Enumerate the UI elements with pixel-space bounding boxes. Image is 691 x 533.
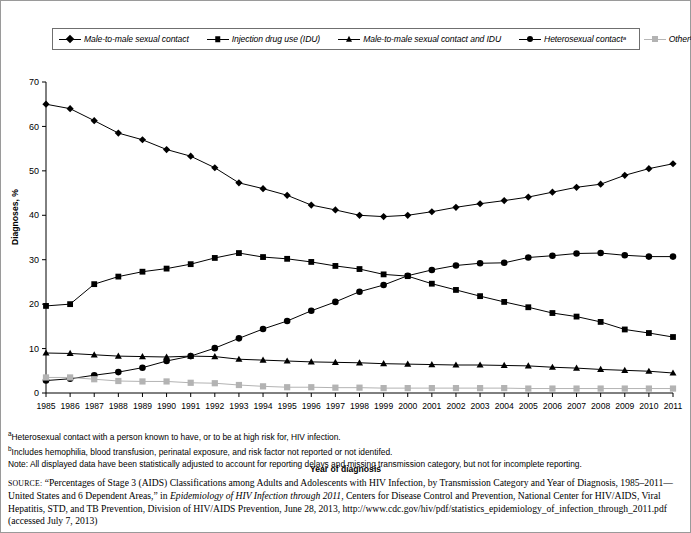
data-point-marker [428, 208, 435, 215]
data-point-marker [646, 330, 652, 336]
data-point-marker [598, 319, 604, 325]
footnote-a: aHeterosexual contact with a person know… [8, 428, 684, 443]
data-point-marker [115, 274, 121, 280]
data-point-marker [139, 364, 146, 371]
data-point-marker [404, 272, 411, 279]
data-point-marker [236, 335, 243, 342]
y-axis-tick-label: 20 [29, 299, 39, 309]
y-axis-title: Diagnoses, % [10, 189, 20, 245]
x-axis-tick-label: 2008 [591, 401, 610, 411]
data-point-marker [67, 105, 74, 112]
data-point-marker [67, 301, 73, 307]
data-point-marker [525, 254, 532, 261]
x-axis-tick-label: 1987 [85, 401, 104, 411]
x-axis-tick-label: 1995 [278, 401, 297, 411]
data-point-marker [91, 281, 97, 287]
data-point-marker [139, 378, 145, 384]
data-point-marker [115, 378, 121, 384]
data-point-marker [669, 160, 676, 167]
data-point-marker [429, 385, 435, 391]
data-point-marker [212, 345, 219, 352]
data-point-marker [477, 293, 483, 299]
x-axis-tick-label: 2009 [615, 401, 634, 411]
data-point-marker [43, 374, 49, 380]
data-point-marker [501, 260, 508, 267]
circle-marker-icon [519, 34, 541, 44]
data-point-marker [140, 269, 146, 275]
triangle-marker-icon [338, 34, 360, 44]
data-point-marker [597, 181, 604, 188]
data-point-marker [284, 318, 291, 325]
data-point-marker [188, 380, 194, 386]
footnote-note: Note: All displayed data have been stati… [8, 459, 684, 471]
data-point-marker [453, 287, 459, 293]
x-axis-tick-label: 1996 [302, 401, 321, 411]
legend-label: Male-to-male sexual contact and IDU [363, 34, 501, 44]
series-male-to-male-sexual-contact-and-idu [43, 349, 677, 375]
data-point-marker [405, 385, 411, 391]
footnote-a-text: Heterosexual contact with a person known… [12, 432, 341, 442]
data-point-marker [163, 146, 170, 153]
x-axis-tick-label: 1991 [181, 401, 200, 411]
y-axis-tick-label: 70 [29, 77, 39, 87]
x-axis-tick-label: 2003 [471, 401, 490, 411]
data-point-marker [477, 385, 483, 391]
x-axis-tick-label: 1994 [253, 401, 272, 411]
data-point-marker [476, 200, 483, 207]
data-point-marker [67, 374, 73, 380]
x-axis-tick-label: 2006 [543, 401, 562, 411]
x-axis-tick-label: 1998 [350, 401, 369, 411]
series-injection-drug-use-idu [43, 250, 676, 340]
legend-label: Male-to-male sexual contact [84, 34, 189, 44]
x-axis-tick-label: 1990 [157, 401, 176, 411]
x-axis-tick-label: 2001 [422, 401, 441, 411]
data-point-marker [212, 380, 218, 386]
legend-item-heterosexual-contact: Heterosexual contactᵃ [519, 34, 626, 44]
data-point-marker [380, 213, 387, 220]
x-axis-tick-label: 1999 [374, 401, 393, 411]
x-axis-tick-label: 2010 [639, 401, 658, 411]
data-point-marker [308, 308, 315, 315]
frame-top-rule [0, 0, 691, 1]
data-point-marker [187, 353, 194, 360]
gray-square-marker-icon [644, 34, 666, 44]
data-point-marker [236, 382, 242, 388]
data-point-marker [597, 250, 604, 257]
data-point-marker [452, 204, 459, 211]
y-axis-tick-label: 60 [29, 122, 39, 132]
data-point-marker [163, 378, 169, 384]
data-point-marker [259, 185, 266, 192]
data-point-marker [525, 193, 532, 200]
data-point-marker [332, 206, 339, 213]
source-publication-title: Epidemiology of HIV Infection through 20… [170, 490, 341, 501]
data-point-marker [646, 253, 653, 260]
legend-label: Otherᵇ [669, 34, 691, 44]
data-point-marker [260, 254, 266, 260]
data-point-marker [357, 266, 363, 272]
data-point-marker [332, 299, 339, 306]
data-point-marker [139, 136, 146, 143]
data-point-marker [308, 384, 314, 390]
data-point-marker [308, 259, 314, 265]
legend-item-other: Otherᵇ [644, 34, 691, 44]
data-point-marker [525, 385, 531, 391]
data-point-marker [645, 165, 652, 172]
data-point-marker [211, 164, 218, 171]
source-block: SOURCE: “Percentages of Stage 3 (AIDS) C… [8, 477, 684, 528]
data-point-marker [163, 358, 170, 365]
data-point-marker [573, 184, 580, 191]
data-point-marker [236, 250, 242, 256]
data-point-marker [453, 385, 459, 391]
series-male-to-male-sexual-contact [42, 101, 676, 221]
footnote-b-text: Includes hemophilia, blood transfusion, … [12, 447, 393, 457]
data-point-marker [260, 383, 266, 389]
data-point-marker [91, 376, 97, 382]
data-point-marker [284, 192, 291, 199]
data-point-marker [477, 260, 484, 267]
line-chart-svg: 0102030405060701985198619871988198919901… [0, 60, 691, 415]
data-point-marker [453, 262, 460, 269]
x-axis-tick-label: 1988 [109, 401, 128, 411]
y-axis-tick-label: 10 [29, 344, 39, 354]
x-axis-tick-label: 1993 [229, 401, 248, 411]
data-point-marker [356, 212, 363, 219]
